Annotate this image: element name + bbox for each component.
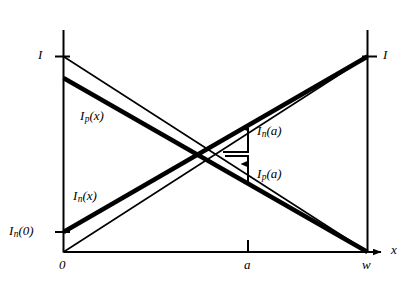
curve-In-thick (64, 57, 368, 233)
curve-Ip-thick (64, 78, 368, 252)
label-a: a (244, 258, 251, 271)
label-I-right: I (383, 48, 387, 61)
label-w: w (362, 258, 371, 271)
label-In-x: In(x) (73, 189, 97, 205)
label-Ip-x: Ip(x) (80, 109, 104, 125)
diagram-svg (0, 0, 415, 288)
label-Ip-a: Ip(a) (257, 167, 282, 183)
label-In-a: In(a) (257, 124, 282, 140)
label-I-left: I (38, 48, 42, 61)
label-In0: In(0) (9, 224, 34, 240)
diagram-canvas: I I In(0) 0 a w x Ip(x) In(x) In(a) Ip(a… (0, 0, 415, 288)
label-x-axis: x (391, 243, 397, 256)
label-origin: 0 (59, 258, 66, 271)
